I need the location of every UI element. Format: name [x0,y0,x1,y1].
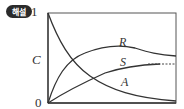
plot-frame [48,13,176,103]
label-S: S [120,56,126,68]
curve-A [48,13,176,101]
label-A: A [121,76,128,88]
plot-area [0,0,184,109]
curve-R [48,46,176,103]
label-R: R [119,36,126,48]
